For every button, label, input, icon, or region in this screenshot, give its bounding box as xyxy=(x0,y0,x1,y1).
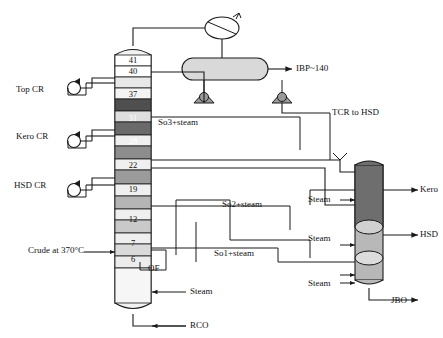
tray-number-12: 12 xyxy=(124,214,142,224)
label-so2-steam: So2+steam xyxy=(222,199,262,209)
label-steam-bottom: Steam xyxy=(190,286,213,296)
label-hsd: HSD xyxy=(420,229,438,239)
tray-number-40: 40 xyxy=(124,66,142,76)
label-top-cr: Top CR xyxy=(16,84,44,94)
label-ibp-140: IBP~140 xyxy=(296,63,328,73)
tray-number-6: 6 xyxy=(124,254,142,264)
label-crude-feed: Crude at 370°C xyxy=(28,245,84,255)
diagram-canvas: 41 40 37 31 28 22 19 12 7 6 Top CR Kero … xyxy=(0,0,443,338)
tray-number-19: 19 xyxy=(124,184,142,194)
label-steam-hsd: Steam xyxy=(308,233,331,243)
label-tcr-to-hsd: TCR to HSD xyxy=(332,107,379,117)
label-jbo: JBO xyxy=(391,295,407,305)
tray-number-41: 41 xyxy=(124,55,142,65)
tray-number-28: 28 xyxy=(124,136,142,146)
label-so1-steam: So1+steam xyxy=(214,248,254,258)
label-kero-cr: Kero CR xyxy=(16,131,48,141)
pumparound-circuits xyxy=(68,78,116,197)
label-so3-steam: So3+steam xyxy=(158,117,198,127)
label-kero: Kero xyxy=(420,184,438,194)
tray-number-37: 37 xyxy=(124,89,142,99)
label-of: OF xyxy=(148,263,160,273)
label-hsd-cr: HSD CR xyxy=(14,180,46,190)
diagram-vector-layer xyxy=(0,0,443,338)
label-steam-kero: Steam xyxy=(308,194,331,204)
tray-number-22: 22 xyxy=(124,160,142,170)
tray-number-7: 7 xyxy=(124,238,142,248)
tray-number-31: 31 xyxy=(124,113,142,123)
label-rco: RCO xyxy=(190,320,209,330)
side-stripper-shell xyxy=(355,161,383,284)
label-steam-jbo: Steam xyxy=(308,278,331,288)
